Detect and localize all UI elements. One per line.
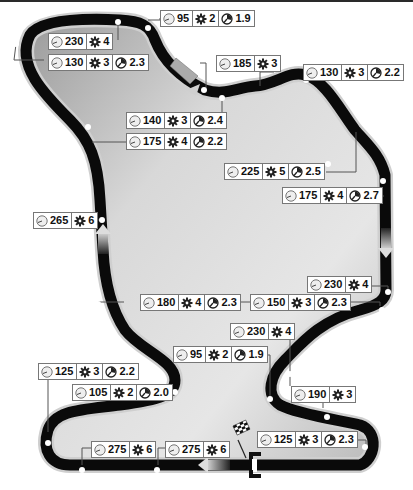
speed-cell: 125	[258, 432, 296, 447]
gforce-cell: 2.2	[368, 65, 402, 80]
corner-info-box: 150 3 2.3	[250, 294, 351, 311]
gear-cell: 6	[72, 213, 97, 228]
gforce-cell: 2.7	[347, 188, 381, 203]
gear-cell: 3	[296, 432, 322, 447]
gear-cell: 2	[206, 347, 232, 362]
g-force-gauge-icon	[105, 366, 117, 378]
gear-cell: 3	[77, 364, 103, 379]
speed-cell: 175	[283, 188, 321, 203]
gear-icon	[132, 444, 144, 456]
gear-cell: 3	[87, 55, 113, 70]
speedometer-icon	[51, 57, 63, 69]
speedometer-icon	[233, 326, 245, 338]
speedometer-icon	[294, 389, 306, 401]
gforce-cell: 2.3	[205, 295, 239, 310]
speed-cell: 175	[127, 134, 165, 149]
speed-cell: 265	[34, 213, 72, 228]
corner-info-box: 125 3 2.3	[257, 431, 358, 448]
gear-cell: 4	[165, 134, 191, 149]
g-force-gauge-icon	[193, 136, 205, 148]
speed-cell: 275	[92, 442, 130, 457]
speedometer-icon	[143, 297, 155, 309]
speedometer-icon	[310, 279, 322, 291]
speed-cell: 230	[49, 34, 87, 49]
speed-cell: 275	[166, 442, 204, 457]
corner-info-box: 180 4 2.3	[140, 294, 241, 311]
speed-cell: 130	[304, 65, 342, 80]
gforce-cell: 2.3	[322, 432, 356, 447]
gear-icon	[344, 67, 356, 79]
gear-icon	[208, 349, 220, 361]
speed-cell: 150	[251, 295, 289, 310]
gear-icon	[167, 115, 179, 127]
gforce-cell: 2.0	[137, 385, 171, 400]
gear-icon	[206, 444, 218, 456]
speedometer-icon	[219, 58, 231, 70]
gear-icon	[298, 434, 310, 446]
g-force-gauge-icon	[207, 297, 219, 309]
corner-info-box: 275 6	[91, 441, 156, 458]
corner-info-box: 95 2 1.9	[173, 346, 268, 363]
corner-info-box: 190 3	[291, 386, 356, 403]
gear-icon	[195, 13, 207, 25]
g-force-gauge-icon	[139, 387, 151, 399]
gear-icon	[271, 326, 283, 338]
gear-icon	[265, 166, 277, 178]
speedometer-icon	[163, 13, 175, 25]
speed-cell: 130	[49, 55, 87, 70]
gear-cell: 3	[165, 113, 191, 128]
speed-cell: 185	[217, 56, 255, 71]
corner-info-box: 225 5 2.5	[224, 163, 325, 180]
gear-icon	[291, 297, 303, 309]
g-force-gauge-icon	[115, 57, 127, 69]
gforce-cell: 2.3	[113, 55, 147, 70]
speed-cell: 125	[39, 364, 77, 379]
speed-cell: 105	[73, 385, 111, 400]
gear-cell: 6	[204, 442, 229, 457]
gear-icon	[89, 36, 101, 48]
gear-icon	[113, 387, 125, 399]
gear-cell: 4	[321, 188, 347, 203]
corner-info-box: 230 4	[48, 33, 113, 50]
gear-icon	[74, 215, 86, 227]
gforce-cell: 1.9	[219, 11, 253, 26]
speedometer-icon	[285, 190, 297, 202]
speed-cell: 95	[174, 347, 206, 362]
gear-icon	[323, 190, 335, 202]
speedometer-icon	[36, 215, 48, 227]
gforce-cell: 1.9	[232, 347, 266, 362]
corner-info-box: 140 3 2.4	[126, 112, 227, 129]
gear-cell: 3	[289, 295, 315, 310]
g-force-gauge-icon	[317, 297, 329, 309]
corner-info-box: 275 6	[165, 441, 230, 458]
gear-icon	[257, 58, 269, 70]
gear-cell: 4	[346, 277, 371, 292]
gear-icon	[89, 57, 101, 69]
speed-cell: 190	[292, 387, 330, 402]
gforce-cell: 2.3	[315, 295, 349, 310]
speed-cell: 95	[161, 11, 193, 26]
gear-cell: 3	[342, 65, 368, 80]
speedometer-icon	[176, 349, 188, 361]
speed-cell: 180	[141, 295, 179, 310]
corner-info-box: 130 3 2.3	[48, 54, 149, 71]
speed-cell: 225	[225, 164, 263, 179]
speed-cell: 140	[127, 113, 165, 128]
speed-cell: 230	[231, 324, 269, 339]
speedometer-icon	[168, 444, 180, 456]
gear-icon	[79, 366, 91, 378]
corner-info-box: 185 3	[216, 55, 281, 72]
speedometer-icon	[306, 67, 318, 79]
gear-cell: 2	[193, 11, 219, 26]
gear-cell: 4	[87, 34, 112, 49]
g-force-gauge-icon	[234, 349, 246, 361]
speedometer-icon	[51, 36, 63, 48]
gforce-cell: 2.2	[103, 364, 137, 379]
gear-cell: 6	[130, 442, 155, 457]
gear-icon	[332, 389, 344, 401]
speedometer-icon	[129, 136, 141, 148]
gear-cell: 4	[269, 324, 294, 339]
g-force-gauge-icon	[349, 190, 361, 202]
gforce-cell: 2.2	[191, 134, 225, 149]
gforce-cell: 2.5	[289, 164, 323, 179]
